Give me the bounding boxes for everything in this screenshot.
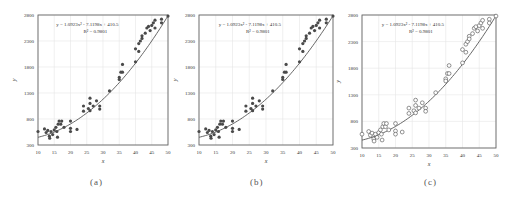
svg-text:40: 40	[297, 150, 303, 155]
svg-text:10: 10	[36, 150, 42, 155]
y-axis-ticks: 3008001300180023002800	[24, 13, 35, 148]
svg-text:30: 30	[101, 150, 107, 155]
y-axis-ticks: 3008001300180023002800	[185, 13, 196, 148]
svg-text:45: 45	[149, 150, 155, 155]
svg-text:50: 50	[494, 153, 500, 158]
r-squared: R² = 0.9801	[246, 29, 270, 34]
x-axis-ticks: 101520253035404550	[36, 150, 172, 155]
svg-text:2300: 2300	[24, 39, 35, 44]
svg-text:2800: 2800	[185, 13, 196, 18]
svg-text:15: 15	[213, 150, 219, 155]
svg-text:1300: 1300	[185, 91, 196, 96]
scatter-chart-c: 1015202530354045503008001300180023002800…	[326, 0, 514, 170]
x-axis-label: x	[264, 158, 268, 164]
x-axis-ticks: 101520253035404550	[197, 150, 337, 155]
svg-text:2800: 2800	[24, 13, 35, 18]
svg-text:800: 800	[351, 119, 359, 124]
svg-text:20: 20	[68, 150, 74, 155]
svg-text:40: 40	[460, 153, 466, 158]
r-squared: R² = 0.9801	[409, 29, 433, 34]
svg-text:1300: 1300	[348, 93, 359, 98]
svg-text:800: 800	[188, 117, 196, 122]
y-axis-label: y	[335, 80, 341, 84]
panel-a: 1015202530354045503008001300180023002800…	[0, 0, 172, 202]
caption-a: (a)	[90, 177, 103, 187]
svg-text:15: 15	[376, 153, 382, 158]
panel-b: 1015202530354045503008001300180023002800…	[162, 0, 338, 202]
svg-text:2300: 2300	[185, 39, 196, 44]
trend-equation: y = 1.0923x² - 7.1198x + 410.5	[56, 22, 119, 27]
panel-c: 1015202530354045503008001300180023002800…	[326, 0, 514, 202]
caption-b: (b)	[250, 177, 264, 187]
svg-text:300: 300	[27, 143, 35, 148]
y-axis-ticks: 3008001300180023002800	[348, 13, 359, 151]
svg-text:2800: 2800	[348, 13, 359, 18]
x-axis-label: x	[101, 158, 105, 164]
svg-text:20: 20	[393, 153, 399, 158]
y-axis-label: y	[172, 78, 178, 82]
svg-text:2300: 2300	[348, 40, 359, 45]
svg-text:10: 10	[197, 150, 203, 155]
svg-text:25: 25	[84, 150, 90, 155]
svg-text:40: 40	[133, 150, 139, 155]
svg-text:300: 300	[188, 143, 196, 148]
svg-text:800: 800	[27, 117, 35, 122]
scatter-chart-b: 1015202530354045503008001300180023002800…	[162, 0, 338, 170]
svg-text:35: 35	[117, 150, 123, 155]
svg-text:35: 35	[443, 153, 449, 158]
svg-text:30: 30	[264, 150, 270, 155]
svg-text:30: 30	[427, 153, 433, 158]
scatter-chart-a: 1015202530354045503008001300180023002800…	[0, 0, 172, 170]
svg-text:25: 25	[410, 153, 416, 158]
svg-text:1800: 1800	[24, 65, 35, 70]
svg-text:15: 15	[52, 150, 58, 155]
svg-text:300: 300	[351, 146, 359, 151]
svg-text:1800: 1800	[185, 65, 196, 70]
svg-text:25: 25	[247, 150, 253, 155]
svg-text:10: 10	[360, 153, 366, 158]
x-axis-label: x	[427, 161, 431, 167]
svg-text:1300: 1300	[24, 91, 35, 96]
y-axis-label: y	[11, 78, 17, 82]
r-squared: R² = 0.9801	[83, 29, 107, 34]
trend-equation: y = 1.0923x² - 7.1198x + 410.5	[219, 22, 282, 27]
trend-equation: y = 1.0923x² - 7.1198x + 410.5	[382, 22, 445, 27]
svg-text:1800: 1800	[348, 66, 359, 71]
svg-text:20: 20	[230, 150, 236, 155]
svg-text:45: 45	[477, 153, 483, 158]
svg-text:35: 35	[280, 150, 286, 155]
caption-c: (c)	[424, 177, 437, 187]
svg-text:45: 45	[314, 150, 320, 155]
x-axis-ticks: 101520253035404550	[360, 153, 500, 158]
